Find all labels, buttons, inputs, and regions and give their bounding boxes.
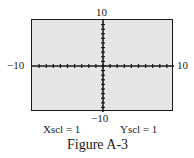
xmin-label: −10 xyxy=(7,60,24,71)
yscl-label: Yscl = 1 xyxy=(120,124,157,135)
axes xyxy=(32,20,174,112)
ymax-label: 10 xyxy=(96,7,107,18)
ymin-label: −10 xyxy=(91,113,108,124)
graphing-window xyxy=(31,19,173,111)
xscl-label: Xscl = 1 xyxy=(43,124,80,135)
figure-caption: Figure A-3 xyxy=(67,138,128,152)
xmax-label: 10 xyxy=(177,60,188,71)
